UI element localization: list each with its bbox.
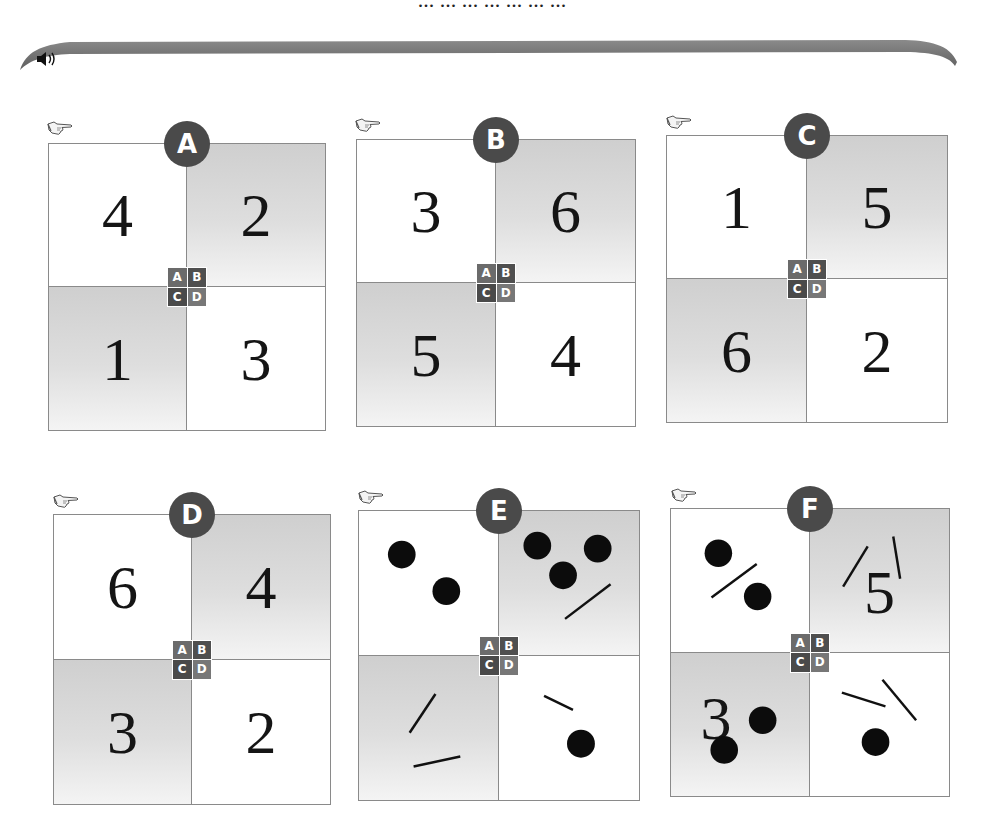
card-label-badge: F	[787, 486, 833, 532]
tally-marks	[499, 656, 639, 801]
grid-cell-c: C	[788, 280, 807, 299]
pointing-hand-icon	[671, 487, 697, 503]
grid-cell-c: C	[480, 656, 499, 675]
quadrant-number: 2	[187, 184, 325, 246]
dot	[749, 706, 777, 734]
quadrant-d: 2	[807, 279, 947, 422]
quadrant-d	[499, 656, 639, 801]
pointing-hand-icon	[53, 493, 79, 509]
tally-marks	[810, 653, 949, 797]
stroke	[414, 756, 461, 766]
quadrant-b: 5	[810, 509, 949, 653]
abcd-grid-icon: A B C D	[476, 263, 516, 303]
grid-cell-d: D	[500, 656, 519, 675]
card-label-badge: C	[784, 113, 830, 159]
pointing-hand-icon	[358, 489, 384, 505]
grid-cell-d: D	[497, 284, 516, 303]
card-e[interactable]: E A B C D	[358, 510, 640, 801]
quadrant-c: 6	[667, 279, 807, 422]
quadrant-a	[359, 511, 499, 656]
stroke	[544, 695, 573, 709]
grid-cell-b: B	[500, 637, 519, 656]
grid-cell-d: D	[811, 653, 830, 672]
quadrant-c: 3	[54, 660, 192, 805]
grid-cell-b: B	[193, 641, 212, 660]
dot	[567, 729, 595, 757]
quadrant-number: 2	[192, 701, 330, 763]
quadrant-number: 5	[357, 324, 495, 386]
grid-cell-a: A	[173, 641, 192, 660]
grid-cell-c: C	[168, 288, 187, 307]
quadrant-c	[359, 656, 499, 801]
quadrant-number: 2	[807, 320, 947, 382]
card-b[interactable]: B 3 6 5 4 A B C D	[356, 139, 636, 427]
quadrant-a: 4	[49, 144, 187, 287]
quadrant-d	[810, 653, 949, 797]
card-d[interactable]: D 6 4 3 2 A B C D	[53, 514, 331, 805]
dot	[705, 539, 733, 567]
card-a[interactable]: A 4 2 1 3 A B C D	[48, 143, 326, 431]
quadrant-number: 4	[496, 324, 635, 386]
pointing-hand-icon	[355, 117, 381, 133]
stroke	[410, 693, 436, 732]
speaker-audio-icon[interactable]	[36, 51, 58, 67]
quadrant-b	[499, 511, 639, 656]
quadrant-d: 2	[192, 660, 330, 805]
dot	[584, 535, 612, 563]
grid-cell-c: C	[173, 660, 192, 679]
stroke	[843, 546, 868, 586]
stroke	[842, 692, 886, 706]
grid-cell-a: A	[168, 268, 187, 287]
dot	[744, 583, 772, 611]
quadrant-number: 1	[667, 176, 806, 238]
card-label-badge: D	[169, 492, 215, 538]
grid-cell-d: D	[193, 660, 212, 679]
quadrant-number: 6	[54, 556, 191, 618]
abcd-grid-icon: A B C D	[787, 259, 827, 299]
quadrant-number: 3	[357, 180, 495, 242]
pointing-hand-icon	[47, 120, 73, 136]
quadrant-number: 3	[54, 701, 191, 763]
grid-cell-c: C	[477, 284, 496, 303]
quadrant-b: 2	[187, 144, 325, 287]
quadrant-number: 5	[807, 176, 947, 238]
quadrant-d: 4	[496, 283, 635, 426]
quadrant-d: 3	[187, 287, 325, 430]
stroke	[893, 537, 900, 579]
quadrant-a	[671, 509, 810, 653]
grid-cell-a: A	[480, 637, 499, 656]
abcd-grid-icon: A B C D	[479, 636, 519, 676]
grid-cell-b: B	[808, 260, 827, 279]
card-c[interactable]: C 1 5 6 2 A B C D	[666, 135, 948, 423]
tally-marks	[671, 653, 809, 797]
grid-cell-a: A	[477, 264, 496, 283]
quadrant-c: 1	[49, 287, 187, 430]
header-banner	[0, 0, 984, 80]
grid-cell-a: A	[791, 634, 810, 653]
tally-marks	[810, 509, 949, 652]
quadrant-b: 5	[807, 136, 947, 279]
grid-cell-d: D	[808, 280, 827, 299]
quadrant-b: 6	[496, 140, 635, 283]
abcd-grid-icon: A B C D	[790, 633, 830, 673]
quadrant-number: 4	[49, 184, 186, 246]
tally-marks	[359, 511, 498, 655]
stroke	[882, 679, 916, 720]
quadrant-number: 3	[187, 328, 325, 390]
dot	[388, 541, 416, 569]
quadrant-a: 6	[54, 515, 192, 660]
stroke	[565, 584, 611, 619]
dot	[710, 736, 738, 764]
card-label-badge: E	[476, 488, 522, 534]
card-f[interactable]: F 5 3 A B C D	[670, 508, 950, 797]
tally-marks	[359, 656, 498, 801]
quadrant-number: 6	[667, 320, 806, 382]
abcd-grid-icon: A B C D	[167, 267, 207, 307]
dot	[523, 532, 551, 560]
abcd-grid-icon: A B C D	[172, 640, 212, 680]
quadrant-number: 1	[49, 328, 186, 390]
pointing-hand-icon	[666, 114, 692, 130]
grid-cell-a: A	[788, 260, 807, 279]
grid-cell-b: B	[811, 634, 830, 653]
card-label-badge: A	[164, 121, 210, 167]
